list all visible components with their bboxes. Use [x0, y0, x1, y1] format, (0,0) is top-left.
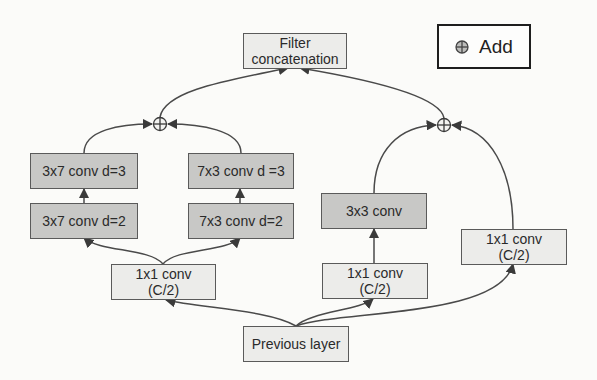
filter-concatenation-line2: concatenation [251, 51, 338, 67]
conv-1x1-right-node: 1x1 conv (C/2) [461, 229, 567, 265]
conv-1x1-mid-line1: 1x1 conv [347, 265, 403, 281]
conv-1x1-mid-line2: (C/2) [359, 281, 390, 297]
conv-3x3-node: 3x3 conv [321, 193, 427, 229]
edge-prev-to-mid-1x1 [296, 299, 373, 326]
conv-7x3-d3-node: 7x3 conv d =3 [188, 153, 294, 189]
conv-7x3-d2-label: 7x3 conv d=2 [199, 213, 283, 229]
edge-prev-to-left-1x1 [166, 300, 296, 326]
circled-plus-icon [455, 40, 469, 54]
edge-left-1x1-to-7x3-d2 [163, 238, 240, 264]
previous-layer-label: Previous layer [252, 336, 341, 352]
conv-7x3-d3-label: 7x3 conv d =3 [197, 163, 285, 179]
add-node-left [154, 118, 167, 131]
conv-3x7-d2-label: 3x7 conv d=2 [42, 213, 126, 229]
conv-1x1-left-node: 1x1 conv (C/2) [111, 264, 216, 300]
edge-left-add-to-concat [160, 68, 288, 117]
edge-right-add-to-concat [300, 68, 444, 118]
conv-3x7-d2-node: 3x7 conv d=2 [30, 203, 138, 239]
previous-layer-node: Previous layer [243, 326, 349, 362]
conv-1x1-left-line2: (C/2) [148, 282, 179, 298]
add-node-right [438, 119, 451, 132]
edge-3x3-to-add [374, 125, 436, 193]
conv-3x3-label: 3x3 conv [346, 203, 402, 219]
legend-label: Add [479, 36, 513, 58]
filter-concatenation-line1: Filter [279, 35, 310, 51]
edge-left-1x1-to-3x7-d2 [84, 238, 163, 264]
conv-3x7-d3-node: 3x7 conv d=3 [30, 153, 138, 189]
edge-right-1x1-to-add [452, 125, 513, 229]
conv-1x1-right-line2: (C/2) [498, 247, 529, 263]
conv-1x1-right-line1: 1x1 conv [486, 231, 542, 247]
edge-7x3-d3-to-add [168, 124, 241, 153]
conv-1x1-left-line1: 1x1 conv [135, 266, 191, 282]
edge-3x7-d3-to-add [84, 124, 152, 153]
filter-concatenation-node: Filter concatenation [243, 33, 347, 69]
conv-1x1-mid-node: 1x1 conv (C/2) [322, 263, 428, 299]
conv-3x7-d3-label: 3x7 conv d=3 [42, 163, 126, 179]
legend-box: Add [437, 24, 531, 69]
diagram-canvas: Filter concatenation Add 3x7 conv d=3 3x… [0, 0, 597, 380]
conv-7x3-d2-node: 7x3 conv d=2 [188, 203, 294, 239]
